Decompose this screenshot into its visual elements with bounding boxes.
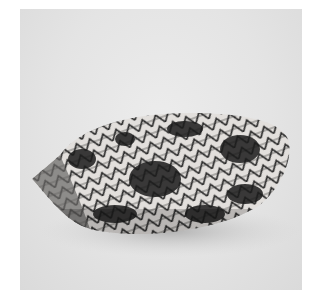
cone-shell-illustration	[20, 9, 302, 290]
shell-photo	[20, 9, 302, 290]
